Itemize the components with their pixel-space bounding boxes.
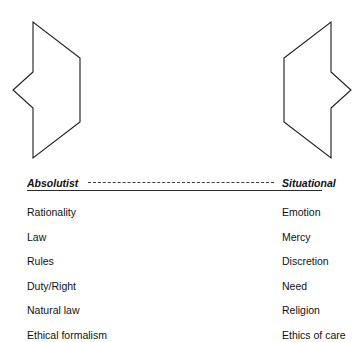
right-column-items: Emotion Mercy Discretion Need Religion E… [282,206,346,342]
list-item: Ethical formalism [27,329,107,342]
right-pointing-arrow [284,22,351,158]
list-item: Religion [282,304,346,317]
left-column: Absolutist Rationality Law Rules Duty/Ri… [27,177,107,342]
list-item: Need [282,280,346,293]
list-item: Mercy [282,231,346,244]
right-column-heading: Situational [282,177,346,190]
dashed-divider [88,182,274,183]
list-item: Law [27,231,107,244]
list-item: Ethics of care [282,329,346,342]
list-item: Rationality [27,206,107,219]
list-item: Duty/Right [27,280,107,293]
left-column-items: Rationality Law Rules Duty/Right Natural… [27,206,107,342]
list-item: Discretion [282,255,346,268]
list-item: Natural law [27,304,107,317]
list-item: Rules [27,255,107,268]
list-item: Emotion [282,206,346,219]
right-column: Situational Emotion Mercy Discretion Nee… [282,177,346,342]
left-column-heading: Absolutist [27,177,107,190]
left-pointing-arrow [13,22,80,158]
